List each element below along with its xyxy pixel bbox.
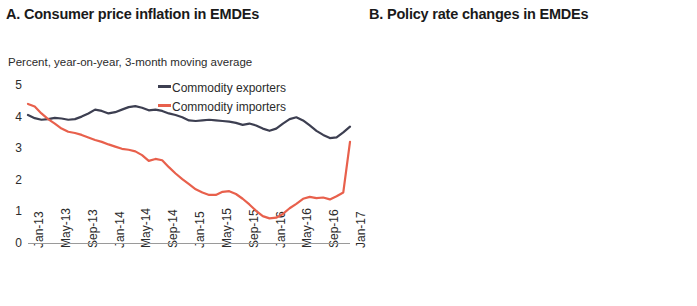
- panel-a-y-tick: 5: [4, 79, 22, 91]
- panel-a-title: A. Consumer price inflation in EMDEs: [6, 6, 259, 22]
- panel-a-y-tick: 1: [4, 205, 22, 217]
- panel-a-y-tick: 0: [4, 237, 22, 249]
- panel-a-baseline: [28, 243, 350, 244]
- panel-a-y-tick: 2: [4, 174, 22, 186]
- panel-a-subtitle: Percent, year-on-year, 3-month moving av…: [8, 56, 252, 68]
- panel-a-consumer-price-inflation: A. Consumer price inflation in EMDEs Per…: [0, 0, 360, 306]
- panel-a-y-tick: 4: [4, 111, 22, 123]
- panel-a-y-tick: 3: [4, 142, 22, 154]
- panel-a-line-chart: [28, 85, 350, 243]
- panel-b-title: B. Policy rate changes in EMDEs: [369, 6, 588, 22]
- panel-b-policy-rate-changes: B. Policy rate changes in EMDEs Basis po…: [360, 0, 697, 306]
- panel-a-plot-area: [28, 85, 350, 243]
